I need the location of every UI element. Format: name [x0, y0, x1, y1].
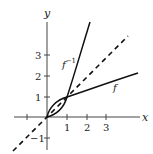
y-tick-label-1: 1 [35, 92, 41, 103]
curve-f [47, 73, 138, 117]
label-f-inverse: f−1 [61, 57, 76, 70]
y-tick-label-neg1: −1 [30, 133, 45, 144]
y-axis-label: y [43, 7, 51, 20]
y-tick-label-3: 3 [35, 50, 41, 61]
label-f: f [112, 82, 119, 93]
label-f-inverse-superscript: −1 [66, 57, 76, 65]
inverse-function-graph: 1 2 3 3 2 1 −1 x y f−1 f [0, 0, 153, 154]
curve-f-inverse [47, 22, 90, 117]
x-tick-label-3: 3 [103, 122, 109, 133]
x-tick-label-1: 1 [64, 122, 70, 133]
x-tick-label-2: 2 [84, 122, 90, 133]
y-tick-label-2: 2 [35, 71, 41, 82]
x-axis-label: x [142, 111, 149, 124]
